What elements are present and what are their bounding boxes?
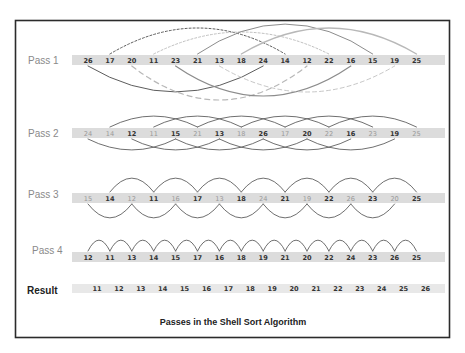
array-value: 19 [390, 57, 400, 65]
sorted-value: 21 [311, 285, 321, 293]
array-value: 17 [193, 254, 203, 262]
array-value: 20 [390, 195, 398, 203]
array-value: 21 [281, 195, 291, 203]
array-value: 26 [390, 254, 400, 262]
array-value: 22 [324, 57, 334, 65]
array-value: 18 [237, 254, 247, 262]
sorted-value: 16 [202, 285, 212, 293]
array-value: 26 [259, 130, 269, 138]
sorted-value: 11 [92, 285, 102, 293]
array-value: 11 [150, 130, 158, 138]
array-value: 22 [324, 195, 334, 203]
array-value: 17 [105, 57, 115, 65]
sorted-value: 14 [158, 285, 168, 293]
array-value: 23 [171, 57, 181, 65]
sorted-value: 12 [114, 285, 124, 293]
sorted-value: 15 [180, 285, 190, 293]
array-value: 16 [346, 57, 356, 65]
sorted-value: 26 [421, 285, 431, 293]
pass-label: Pass 4 [32, 245, 63, 256]
array-value: 14 [281, 57, 291, 65]
array-value: 14 [149, 254, 159, 262]
array-value: 23 [369, 130, 377, 138]
array-value: 11 [149, 57, 159, 65]
array-value: 15 [171, 254, 181, 262]
array-value: 14 [105, 195, 115, 203]
array-value: 16 [171, 195, 179, 203]
sorted-value: 17 [224, 285, 234, 293]
result-label: Result [27, 285, 58, 296]
array-value: 22 [324, 254, 334, 262]
sorted-value: 20 [290, 285, 300, 293]
array-value: 25 [412, 57, 422, 65]
array-value: 20 [302, 254, 312, 262]
array-value: 16 [346, 130, 356, 138]
array-value: 22 [325, 130, 333, 138]
array-value: 23 [368, 195, 378, 203]
array-value: 14 [106, 130, 114, 138]
array-value: 13 [215, 130, 225, 138]
sorted-value: 25 [399, 285, 409, 293]
array-value: 17 [281, 130, 289, 138]
pass-label: Pass 1 [28, 55, 59, 66]
array-value: 21 [193, 57, 203, 65]
shell-sort-diagram: Pass 1 26172011232113182414122216151925 … [0, 0, 465, 353]
sorted-value: 19 [268, 285, 278, 293]
array-value: 20 [127, 57, 137, 65]
sorted-value: 13 [136, 285, 146, 293]
array-value: 19 [303, 195, 311, 203]
array-value: 12 [127, 130, 137, 138]
array-value: 11 [105, 254, 115, 262]
sorted-value: 22 [333, 285, 343, 293]
array-value: 15 [368, 57, 378, 65]
array-value: 15 [171, 130, 181, 138]
array-value: 18 [237, 195, 247, 203]
array-value: 18 [237, 57, 247, 65]
array-value: 13 [215, 57, 225, 65]
array-value: 13 [127, 254, 137, 262]
array-value: 12 [83, 254, 93, 262]
array-value: 21 [281, 254, 291, 262]
array-bar [72, 284, 445, 293]
array-value: 19 [390, 130, 400, 138]
array-value: 24 [259, 195, 267, 203]
pass-label: Pass 2 [28, 128, 59, 139]
array-value: 18 [237, 130, 245, 138]
diagram-caption: Passes in the Shell Sort Algorithm [160, 317, 307, 327]
array-value: 24 [84, 130, 92, 138]
array-value: 21 [193, 130, 201, 138]
array-value: 24 [346, 254, 356, 262]
array-value: 16 [215, 254, 225, 262]
array-value: 23 [368, 254, 378, 262]
array-value: 25 [412, 130, 420, 138]
array-value: 19 [259, 254, 269, 262]
array-value: 26 [83, 57, 93, 65]
array-value: 26 [347, 195, 355, 203]
array-value: 12 [302, 57, 312, 65]
sorted-value: 18 [246, 285, 256, 293]
array-value: 24 [259, 57, 269, 65]
array-value: 20 [302, 130, 312, 138]
array-value: 12 [128, 195, 136, 203]
array-value: 25 [412, 254, 422, 262]
array-value: 17 [193, 195, 203, 203]
array-value: 11 [149, 195, 159, 203]
array-value: 25 [412, 195, 422, 203]
sorted-value: 23 [355, 285, 365, 293]
pass-label: Pass 3 [28, 189, 59, 200]
sorted-value: 24 [377, 285, 387, 293]
array-value: 15 [84, 195, 92, 203]
array-value: 13 [215, 195, 223, 203]
